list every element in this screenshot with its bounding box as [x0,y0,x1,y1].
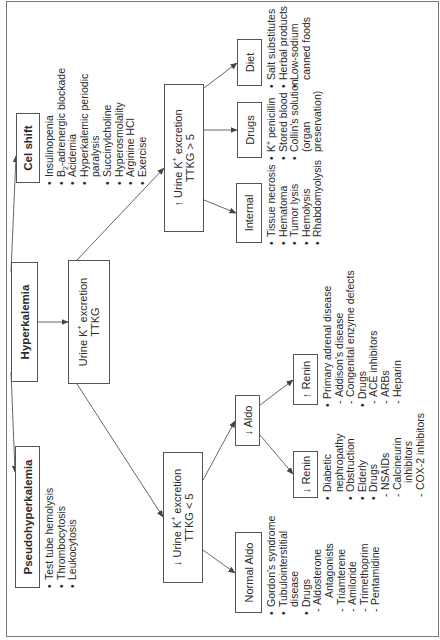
up-arrow-icon: ↑ [300,393,312,399]
label-text: Urine K [172,161,184,201]
list-item: Gordon's syndrome [266,516,278,615]
list-item: Heparin [392,270,404,407]
list-item: Leukocytosis [67,488,79,588]
list-item: Pentamidine [370,516,382,615]
down-arrow-icon: ↓ [171,561,183,567]
list-item: Insulinopenia [44,68,56,185]
list-item: Amiloride [347,516,359,615]
node-label: Internal [243,195,255,232]
node-normal-aldo: Normal Aldo [235,532,262,613]
label-text: excretion [171,469,183,517]
high-renin-causes-list: Primary adrenal disease Addison's diseas… [322,270,403,407]
list-item: COX-2 inhibitors [415,413,427,500]
node-label: Cel shift [22,125,34,170]
node-internal: Internal [236,183,262,243]
superscript: + [171,157,178,161]
superscript: + [170,517,177,521]
node-label-line1: Urine K+ excretion [77,278,89,366]
node-urine-decreased: ↓ Urine K+ excretion TTKG < 5 [163,452,203,583]
diet-causes-list: Salt substitutes Herbal products Low-sod… [266,6,312,88]
node-urine-excretion-ttkg: Urine K+ excretion TTKG [68,260,110,384]
node-label: Hyperkalemia [19,285,31,360]
drugs-increased-list: K+ penicillin Stored blood Collin's solu… [266,79,324,160]
list-item: Antagonists [324,516,336,615]
label-text: Renin [300,361,312,393]
label-text: Urine K [77,330,89,367]
label-text: Urine K [171,521,183,561]
node-hyperkalemia: Hyperkalemia [11,262,38,382]
node-label: Normal Aldo [243,543,255,603]
low-renin-causes-list: Diabetic nephropathy Obstruction Elderly… [322,413,426,500]
list-item: Succinylcholine [102,68,114,185]
node-label: Drugs [244,115,256,144]
list-item: Diabetic [322,413,334,500]
node-label: ↑ Renin [300,361,312,398]
node-label-line2: TTKG [89,307,101,336]
node-label: ↓ Renin [300,456,312,493]
cell-shift-causes-list: Insulinopenia B2-adrenergic blockade Aci… [44,68,148,185]
node-cell-shift: Cel shift [16,113,40,183]
node-low-aldo: ↓ Aldo [235,395,260,446]
list-item: preservation) [312,79,324,160]
superscript: + [76,325,83,329]
down-arrow-icon: ↓ [300,488,312,494]
node-label: Pseudohyperkalemia [22,459,34,574]
node-label-line1: ↑ Urine K+ excretion [172,109,184,206]
list-item: Rhabdomyolysis [312,160,324,245]
node-label: Diet [244,53,256,73]
node-pseudohyperkalemia: Pseudohyperkalemia [15,446,40,588]
node-urine-increased: ↑ Urine K+ excretion TTKG > 5 [164,84,204,232]
label-text: excretion [172,109,184,157]
list-item: Tissue necrosis [266,160,278,245]
list-item: inhibitors [403,413,415,500]
label-text: Renin [300,456,312,488]
label-text: excretion [77,278,89,326]
node-label-line2: TTKG < 5 [183,494,195,542]
list-item: Exercise [137,68,149,185]
list-item: Test tube hemolysis [44,488,56,588]
label-text: Aldo [242,406,254,430]
down-arrow-icon: ↓ [242,430,254,436]
list-item: canned foods [301,6,313,88]
node-label-line1: ↓ Urine K+ excretion [171,469,183,566]
node-label-line2: TTKG > 5 [184,134,196,182]
diagram-canvas: Hyperkalemia Cel shift Insulinopenia B2-… [0,0,440,640]
list-item: Salt substitutes [266,6,278,88]
up-arrow-icon: ↑ [172,201,184,207]
pseudohyperkalemia-causes-list: Test tube hemolysis Thrombocytosis Leuko… [44,488,79,588]
internal-causes-list: Tissue necrosis Hematoma Tumor lysis Hem… [266,160,324,245]
list-item: K+ penicillin [266,79,278,160]
normal-aldo-causes-list: Gordon's syndrome Tubulointerstitial dis… [266,516,382,615]
list-item: ARBs [380,270,392,407]
list-item: Primary adrenal disease [322,270,334,407]
node-high-renin: ↑ Renin [293,354,318,405]
node-label: ↓ Aldo [242,406,254,436]
list-item: NSAIDs [380,413,392,500]
list-item: Arginine HCl [125,68,137,185]
node-drugs-increased: Drugs [237,102,262,158]
node-low-renin: ↓ Renin [293,451,318,498]
node-diet: Diet [237,39,262,86]
